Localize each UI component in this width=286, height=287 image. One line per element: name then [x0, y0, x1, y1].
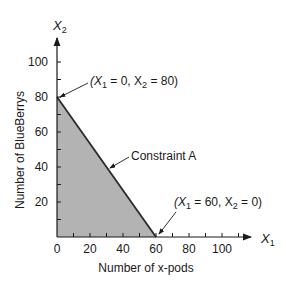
linear-programming-chart: 020406080100 20406080100 X2 X1 Number of… [0, 0, 286, 287]
y-axis-symbol: X2 [52, 18, 67, 35]
x-tick-label: 40 [116, 242, 130, 256]
y-tick-label: 80 [35, 90, 49, 104]
annotation-arrow-constraint [110, 157, 129, 168]
annotation-point-0-80: (X1 = 0, X2 = 80) [90, 74, 178, 90]
x-tick-label: 80 [182, 242, 196, 256]
y-tick-label: 60 [35, 125, 49, 139]
annotation-arrow-bottom [159, 212, 176, 234]
annotation-point-60-0: (X1 = 60, X2 = 0) [174, 195, 262, 211]
x-axis-title: Number of x-pods [98, 261, 193, 275]
x-tick-label: 0 [54, 242, 61, 256]
y-tick-label: 20 [35, 195, 49, 209]
annotation-constraint-a: Constraint A [131, 149, 196, 163]
y-tick-label: 40 [35, 160, 49, 174]
x-tick-label: 100 [212, 242, 232, 256]
x-axis-tick-labels: 020406080100 [54, 242, 233, 256]
y-axis-tick-labels: 20406080100 [28, 55, 48, 209]
x-tick-label: 60 [149, 242, 163, 256]
y-tick-label: 100 [28, 55, 48, 69]
x-axis-symbol: X1 [260, 231, 275, 248]
y-axis-title: Number of BlueBerrys [13, 91, 27, 209]
annotation-arrow-top [60, 83, 88, 97]
x-tick-label: 20 [83, 242, 97, 256]
